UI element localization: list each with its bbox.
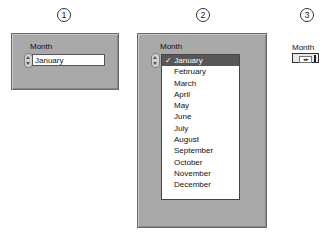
month-label: Month <box>160 42 182 51</box>
panel-expanded-ring: Month ✓ January February March April May… <box>137 33 267 228</box>
check-icon: ✓ <box>165 56 172 65</box>
menu-item-march[interactable]: March <box>162 78 239 89</box>
month-label: Month <box>30 42 52 51</box>
menu-item-june[interactable]: June <box>162 111 239 122</box>
compact-month-ring[interactable]: ◂▸ <box>292 53 319 63</box>
menu-item-december[interactable]: December <box>162 179 239 190</box>
menu-item-august[interactable]: August <box>162 134 239 145</box>
increment-decrement-arrows[interactable] <box>151 53 160 68</box>
step-marker-1: 1 <box>57 8 71 22</box>
ring-indicator: ◂▸ <box>299 56 312 63</box>
panel-collapsed-ring: Month January <box>11 33 119 90</box>
menu-item-october[interactable]: October <box>162 157 239 168</box>
month-ring-value[interactable]: January <box>32 54 105 66</box>
menu-item-september[interactable]: September <box>162 145 239 156</box>
menu-item-july[interactable]: July <box>162 123 239 134</box>
menu-item-november[interactable]: November <box>162 168 239 179</box>
ring-edge-bar <box>314 55 316 62</box>
step-marker-3: 3 <box>300 8 314 22</box>
step-marker-2: 2 <box>196 8 210 22</box>
menu-item-may[interactable]: May <box>162 100 239 111</box>
menu-item-january[interactable]: ✓ January <box>162 55 239 66</box>
menu-item-february[interactable]: February <box>162 66 239 77</box>
menu-item-april[interactable]: April <box>162 89 239 100</box>
month-dropdown-list: ✓ January February March April May June … <box>161 54 240 200</box>
month-label: Month <box>292 43 314 52</box>
